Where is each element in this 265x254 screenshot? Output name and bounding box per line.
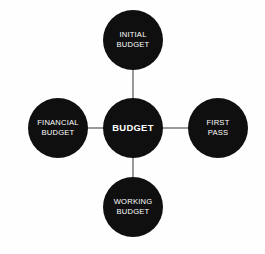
node-initial-budget-label-line-1: INITIAL — [119, 30, 146, 40]
connector-hub-to-working-budget — [132, 156, 134, 179]
node-first-pass[interactable]: FIRST PASS — [188, 98, 248, 158]
connector-hub-to-first-pass — [161, 127, 190, 129]
node-working-budget-label-line-2: BUDGET — [117, 207, 150, 217]
node-budget-hub-label: BUDGET — [112, 122, 153, 135]
node-financial-budget-label-line-1: FINANCIAL — [37, 118, 78, 128]
node-budget-hub[interactable]: BUDGET — [103, 98, 163, 158]
node-initial-budget-label-line-2: BUDGET — [117, 40, 150, 50]
node-financial-budget[interactable]: FINANCIAL BUDGET — [28, 98, 88, 158]
node-working-budget-label-line-1: WORKING — [114, 197, 153, 207]
node-first-pass-label-line-2: PASS — [208, 128, 229, 138]
budget-diagram: INITIAL BUDGET FINANCIAL BUDGET BUDGET F… — [0, 0, 265, 254]
node-initial-budget[interactable]: INITIAL BUDGET — [103, 10, 163, 70]
node-financial-budget-label-line-2: BUDGET — [42, 128, 75, 138]
connector-hub-to-initial-budget — [132, 68, 134, 100]
node-first-pass-label-line-1: FIRST — [207, 118, 230, 128]
node-working-budget[interactable]: WORKING BUDGET — [103, 177, 163, 237]
